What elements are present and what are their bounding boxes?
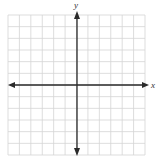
y-axis xyxy=(74,11,80,156)
x-axis xyxy=(8,82,149,88)
x-axis-left-arrow-icon xyxy=(8,82,15,88)
x-axis-right-arrow-icon xyxy=(142,82,149,88)
x-axis-label: x xyxy=(150,80,155,90)
y-axis-label: y xyxy=(73,0,78,10)
coordinate-plane: x y xyxy=(0,0,163,159)
